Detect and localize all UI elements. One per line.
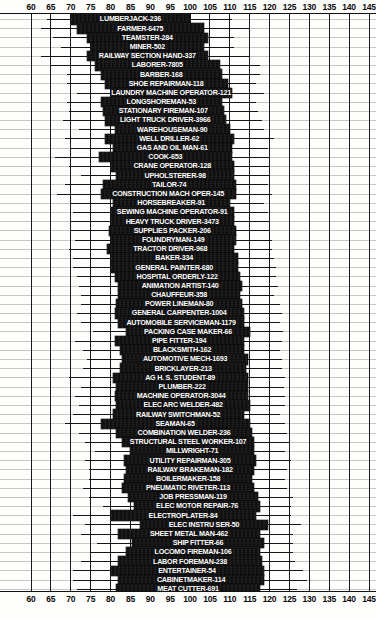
- axis-tick-bottom-70: 70: [66, 594, 75, 604]
- axis-tick-top-75: 75: [86, 2, 95, 12]
- axis-tick-bottom-100: 100: [183, 594, 197, 604]
- axis-tick-bottom-125: 125: [283, 594, 297, 604]
- axis-tick-bottom-80: 80: [106, 594, 115, 604]
- axis-tick-bottom-110: 110: [223, 594, 236, 604]
- axis-tick-bottom-130: 130: [303, 594, 317, 604]
- plot-area: LUMBERJACK-236FARMER-6475TEAMSTER-284MIN…: [0, 13, 376, 592]
- axis-tick-bottom-145: 145: [362, 594, 376, 604]
- axis-tick-top-90: 90: [146, 2, 155, 12]
- axis-tick-bottom-115: 115: [243, 594, 256, 604]
- axis-tick-top-120: 120: [263, 2, 277, 12]
- x-axis-bottom: 6065707580859095100105110115120125130135…: [0, 592, 376, 605]
- axis-tick-top-125: 125: [283, 2, 297, 12]
- axis-tick-top-145: 145: [362, 2, 376, 12]
- axis-tick-top-85: 85: [126, 2, 135, 12]
- axis-tick-bottom-120: 120: [263, 594, 277, 604]
- axis-tick-bottom-140: 140: [342, 594, 356, 604]
- axis-tick-bottom-135: 135: [322, 594, 336, 604]
- axis-tick-bottom-90: 90: [146, 594, 155, 604]
- range-box: [116, 584, 259, 592]
- axis-tick-top-105: 105: [203, 2, 217, 12]
- axis-tick-bottom-65: 65: [46, 594, 55, 604]
- axis-tick-top-100: 100: [183, 2, 197, 12]
- axis-tick-top-110: 110: [223, 2, 236, 12]
- axis-tick-top-135: 135: [322, 2, 336, 12]
- occupation-score-chart: 6065707580859095100105110115120125130135…: [0, 0, 376, 617]
- axis-tick-top-140: 140: [342, 2, 356, 12]
- axis-tick-top-60: 60: [26, 2, 35, 12]
- axis-tick-top-115: 115: [243, 2, 256, 12]
- axis-tick-bottom-105: 105: [203, 594, 217, 604]
- axis-tick-top-130: 130: [303, 2, 317, 12]
- axis-tick-top-65: 65: [46, 2, 55, 12]
- axis-tick-top-70: 70: [66, 2, 75, 12]
- axis-tick-top-80: 80: [106, 2, 115, 12]
- axis-tick-top-95: 95: [166, 2, 175, 12]
- axis-tick-bottom-75: 75: [86, 594, 95, 604]
- bar-row: MEAT CUTTER-691: [0, 584, 376, 592]
- axis-tick-bottom-60: 60: [26, 594, 35, 604]
- axis-tick-bottom-85: 85: [126, 594, 135, 604]
- x-axis-top: 6065707580859095100105110115120125130135…: [0, 0, 376, 13]
- axis-tick-bottom-95: 95: [166, 594, 175, 604]
